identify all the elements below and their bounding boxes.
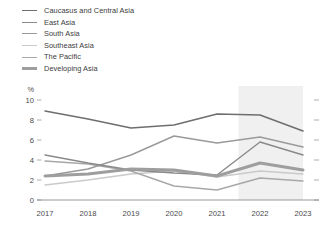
forecast-shaded-band [239, 86, 304, 200]
legend-line-swatch [22, 22, 37, 23]
legend-item-label: Developing Asia [44, 63, 98, 75]
legend-line-swatch [22, 57, 37, 58]
y-tick-label: 0 [30, 196, 34, 205]
y-tick-label: 8 [30, 116, 34, 125]
x-tick-label: 2022 [252, 209, 269, 218]
x-axis: 2017201820192020202120222023 [37, 200, 319, 218]
x-tick-label: 2017 [37, 209, 54, 218]
x-tick-label: 2023 [295, 209, 312, 218]
legend-item[interactable]: South Asia [22, 28, 322, 40]
x-tick-label: 2019 [123, 209, 140, 218]
right-axis-ticks [314, 100, 319, 200]
x-tick-label: 2018 [80, 209, 97, 218]
legend-line-swatch [22, 45, 37, 46]
y-axis-unit-label: % [27, 85, 34, 94]
legend-line-swatch [22, 33, 37, 34]
line-chart-figure: Caucasus and Central AsiaEast AsiaSouth … [0, 0, 328, 227]
legend-item[interactable]: Developing Asia [22, 63, 322, 75]
legend-item[interactable]: Caucasus and Central Asia [22, 5, 322, 17]
legend-item-label: The Pacific [44, 51, 81, 63]
legend-item[interactable]: Southeast Asia [22, 40, 322, 52]
legend-item[interactable]: The Pacific [22, 51, 322, 63]
y-axis-ticks: 1086420 [26, 96, 42, 205]
y-tick-label: 6 [30, 136, 34, 145]
legend-item-label: Southeast Asia [44, 40, 94, 52]
chart-legend: Caucasus and Central AsiaEast AsiaSouth … [22, 5, 322, 75]
plot-svg: 1086420 2017201820192020202120222023 % [0, 78, 328, 227]
legend-item-label: East Asia [44, 17, 75, 29]
x-tick-label: 2020 [166, 209, 183, 218]
legend-item-label: South Asia [44, 28, 80, 40]
plot-area: 1086420 2017201820192020202120222023 % [0, 78, 328, 227]
x-tick-label: 2021 [209, 209, 226, 218]
y-tick-label: 2 [30, 176, 34, 185]
legend-item[interactable]: East Asia [22, 17, 322, 29]
y-tick-label: 4 [30, 156, 34, 165]
legend-line-swatch [22, 67, 37, 70]
legend-item-label: Caucasus and Central Asia [44, 5, 134, 17]
y-axis-unit: % [27, 85, 34, 94]
y-tick-label: 10 [26, 96, 34, 105]
legend-line-swatch [22, 10, 37, 11]
